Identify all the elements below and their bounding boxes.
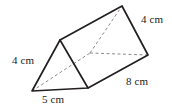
hidden-back-left-edge	[90, 6, 122, 53]
label-right-slant-length: 4 cm	[141, 14, 163, 25]
hidden-back-base-edge	[90, 53, 148, 55]
label-left-slant-length: 4 cm	[12, 55, 34, 66]
hidden-bottom-left-edge	[32, 53, 90, 91]
label-prism-length: 8 cm	[126, 76, 148, 87]
triangular-prism-figure: 4 cm 5 cm 4 cm 8 cm	[0, 0, 172, 110]
label-base-length: 5 cm	[42, 94, 64, 105]
front-triangle-outline	[32, 40, 88, 91]
